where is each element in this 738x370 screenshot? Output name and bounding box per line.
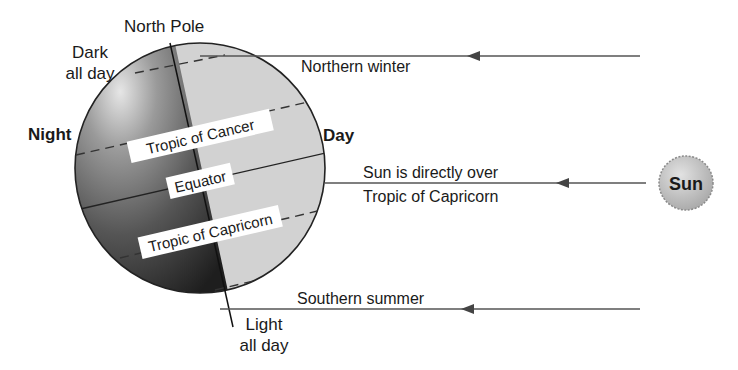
sun-directly-over-label-2: Tropic of Capricorn <box>363 188 498 205</box>
seasons-diagram: Tropic of Cancer Equator Tropic of Capri… <box>0 0 738 370</box>
dark-all-day-label-1: Dark <box>72 43 108 62</box>
svg-text:Sun: Sun <box>669 174 703 194</box>
sun-directly-over-label-1: Sun is directly over <box>363 164 499 181</box>
light-all-day-label-2: all day <box>239 336 289 355</box>
night-label: Night <box>28 125 72 144</box>
sun: Sun <box>659 156 713 210</box>
sun-ray-northern <box>200 51 640 61</box>
light-all-day-label-1: Light <box>246 315 283 334</box>
north-pole-label: North Pole <box>124 17 204 36</box>
day-label: Day <box>323 126 355 145</box>
northern-winter-label: Northern winter <box>301 58 411 75</box>
dark-all-day-label-2: all day <box>65 64 115 83</box>
southern-summer-label: Southern summer <box>297 290 425 307</box>
arrow-left-icon <box>467 51 480 61</box>
arrow-left-icon <box>461 304 474 314</box>
sun-ray-southern <box>220 304 640 314</box>
arrow-left-icon <box>556 178 569 188</box>
